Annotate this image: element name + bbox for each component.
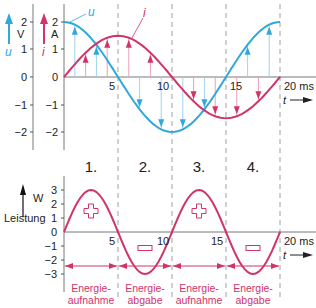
svg-text:4.: 4.: [247, 158, 260, 175]
svg-text:5: 5: [109, 235, 115, 247]
svg-text:0: 0: [51, 226, 57, 238]
svg-text:20 ms: 20 ms: [284, 80, 314, 92]
svg-text:1: 1: [51, 212, 57, 224]
power-t-arrow: t: [283, 249, 313, 261]
power-y-ticks: 3 2 1 0 −1 −2 −3: [44, 184, 64, 280]
amp-unit: A: [51, 28, 59, 40]
svg-text:−1: −1: [14, 99, 27, 111]
svg-text:Energie-: Energie-: [233, 282, 273, 294]
svg-text:1: 1: [52, 43, 58, 55]
svg-text:t: t: [283, 249, 287, 261]
u-curve-label: u: [88, 5, 95, 19]
minus-sign-1: [138, 246, 152, 251]
svg-text:−1: −1: [45, 99, 58, 111]
energy-labels: Energie- aufnahme Energie- abgabe Energi…: [68, 282, 274, 306]
svg-text:5: 5: [109, 80, 115, 92]
u-label-leader: [70, 14, 86, 22]
svg-text:3.: 3.: [193, 158, 206, 175]
svg-text:3: 3: [51, 184, 57, 196]
svg-text:Energie-: Energie-: [125, 282, 165, 294]
svg-text:2: 2: [21, 16, 27, 28]
power-chart: W Leistung 3 2 1 0 −1 −2 −3 5 10 15 20 m…: [4, 176, 316, 292]
i-axis-legend: i: [40, 13, 48, 59]
arrow-up-icon: [5, 13, 13, 24]
arrow-right-icon: [303, 97, 313, 103]
svg-text:0: 0: [52, 71, 58, 83]
svg-text:15: 15: [211, 235, 223, 247]
i-curve-label: i: [143, 6, 146, 20]
svg-text:1: 1: [21, 43, 27, 55]
power-axis-label: Leistung: [4, 212, 46, 224]
svg-text:Energie-: Energie-: [179, 282, 219, 294]
svg-text:i: i: [42, 45, 45, 59]
svg-text:2.: 2.: [139, 158, 152, 175]
svg-text:10: 10: [157, 235, 169, 247]
arrow-up-icon: [20, 184, 26, 195]
svg-text:Energie-: Energie-: [71, 282, 111, 294]
plus-sign-2: [192, 204, 206, 218]
svg-text:W: W: [33, 192, 44, 204]
ac-power-chart: u i u i V A 2 1 0 −1 −2 2 1: [0, 0, 316, 308]
minus-sign-2: [246, 246, 260, 251]
svg-text:0: 0: [21, 71, 27, 83]
u-axis-legend: u: [5, 13, 13, 59]
svg-text:2: 2: [51, 198, 57, 210]
svg-text:t: t: [283, 94, 287, 106]
svg-text:10: 10: [157, 80, 169, 92]
svg-text:20 ms: 20 ms: [284, 235, 314, 247]
svg-text:aufnahme: aufnahme: [68, 294, 115, 306]
svg-text:−2: −2: [45, 126, 58, 138]
i-label-leader: [132, 18, 143, 38]
arrow-right-icon: [303, 252, 313, 258]
svg-text:u: u: [5, 45, 12, 59]
svg-text:−3: −3: [44, 268, 57, 280]
svg-text:2: 2: [52, 16, 58, 28]
svg-text:−2: −2: [44, 254, 57, 266]
svg-text:−1: −1: [44, 240, 57, 252]
svg-text:abgabe: abgabe: [127, 294, 162, 306]
arrow-up-icon: [40, 13, 48, 24]
svg-text:1.: 1.: [85, 158, 98, 175]
svg-text:aufnahme: aufnahme: [176, 294, 223, 306]
phase-divider-lines: [118, 4, 280, 300]
svg-text:abgabe: abgabe: [235, 294, 270, 306]
volt-unit: V: [17, 28, 25, 40]
plus-sign-1: [84, 204, 98, 218]
svg-text:−2: −2: [14, 126, 27, 138]
svg-text:15: 15: [230, 80, 242, 92]
top-t-arrow: t: [283, 94, 313, 106]
